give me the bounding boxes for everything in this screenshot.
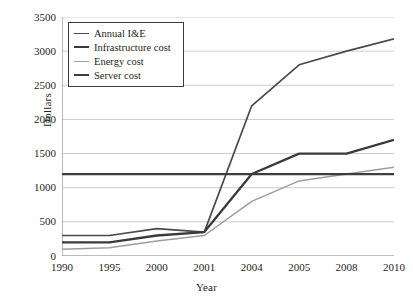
legend-label: Annual I&E [94, 28, 146, 39]
y-axis-tick-label: 3500 [12, 12, 56, 23]
series-line [62, 140, 394, 242]
legend-label: Energy cost [94, 56, 144, 67]
y-axis-tick-label: 1500 [12, 148, 56, 159]
y-axis-tick-label: 3000 [12, 46, 56, 57]
x-axis-tick-label: 2001 [178, 262, 230, 273]
legend-line-swatch-icon [74, 61, 89, 62]
legend-label: Server cost [94, 70, 141, 81]
legend-line-swatch-icon [74, 33, 89, 34]
x-axis-tick-label: 1995 [83, 262, 135, 273]
series-line [62, 167, 394, 249]
legend-line-swatch-icon [74, 46, 89, 48]
y-axis-tick-label: 2000 [12, 114, 56, 125]
x-axis-tick-label: 2004 [226, 262, 278, 273]
chart-legend: Annual I&EInfrastructure costEnergy cost… [68, 22, 184, 87]
legend-label: Infrastructure cost [94, 42, 171, 53]
x-axis-tick-label: 2000 [131, 262, 183, 273]
x-axis-tick-label: 2008 [321, 262, 373, 273]
legend-item: Infrastructure cost [74, 40, 179, 54]
x-axis-tick-label: 1990 [36, 262, 88, 273]
y-axis-tick-label: 0 [12, 251, 56, 262]
legend-item: Annual I&E [74, 26, 179, 40]
y-axis-tick-label: 1000 [12, 182, 56, 193]
legend-item: Server cost [74, 68, 179, 82]
legend-line-swatch-icon [74, 74, 89, 76]
legend-item: Energy cost [74, 54, 179, 68]
y-axis-tick-labels: 0500100015002000250030003500 [10, 0, 56, 299]
x-axis-title: Year [0, 281, 413, 293]
x-axis-tick-label: 2005 [273, 262, 325, 273]
y-axis-tick-label: 2500 [12, 80, 56, 91]
x-axis-tick-label: 2010 [368, 262, 413, 273]
y-axis-tick-label: 500 [12, 216, 56, 227]
line-chart: Dollars 0500100015002000250030003500 199… [0, 0, 413, 299]
